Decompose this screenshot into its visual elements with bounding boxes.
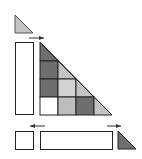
bottom-left-arrow-icon bbox=[30, 124, 45, 128]
triangular-grid bbox=[40, 42, 112, 115]
cell-r4-c2 bbox=[58, 97, 76, 115]
cell-r4-c1 bbox=[40, 97, 58, 115]
cell-r4-c3 bbox=[76, 97, 94, 115]
cell-r3-c1 bbox=[40, 79, 58, 97]
tall-rectangle bbox=[16, 43, 34, 115]
top-arrow-icon bbox=[29, 36, 44, 40]
top-small-triangle bbox=[15, 15, 33, 33]
cell-r2-c1 bbox=[40, 61, 58, 79]
diagram-canvas bbox=[0, 0, 142, 159]
bottom-long-rectangle bbox=[41, 132, 113, 150]
bottom-right-arrow-icon bbox=[107, 124, 121, 128]
cell-r3-c2 bbox=[58, 79, 76, 97]
bottom-dark-triangle bbox=[118, 131, 136, 149]
bottom-small-square bbox=[16, 132, 34, 150]
